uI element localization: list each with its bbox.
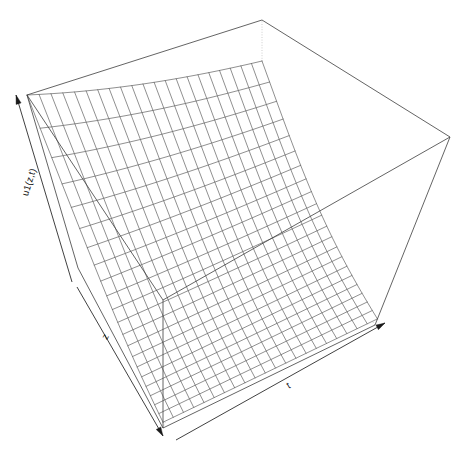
axis-label-z: z: [99, 331, 111, 341]
surface-mesh: [27, 61, 377, 422]
axis-label-u1: u1(z,t): [19, 167, 38, 197]
axis-label-t: t: [284, 379, 292, 390]
surface-plot-figure: u1(z,t) z t: [0, 0, 475, 456]
plot-canvas: u1(z,t) z t: [0, 0, 475, 456]
